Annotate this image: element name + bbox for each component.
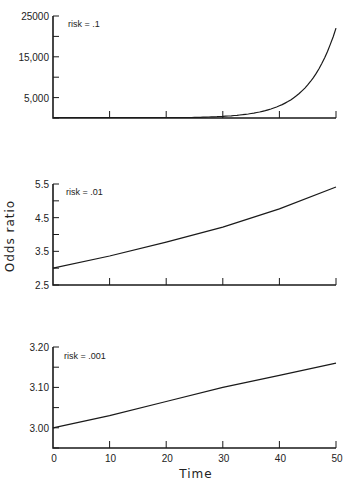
series-line [53,28,336,117]
risk-annotation: risk = .1 [68,19,100,29]
y-tick-label: 3.10 [30,382,50,393]
risk-annotation: risk = .001 [64,351,106,361]
series-line [53,363,336,428]
x-axis-title: Time [178,467,212,481]
risk-annotation: risk = .01 [66,187,103,197]
x-tick-label: 20 [162,453,174,464]
y-tick-label: 3.20 [30,342,50,353]
figure: 5,00015,00025000risk = .1 2.53.54.55.5ri… [0,0,359,492]
axis-lines [53,347,336,448]
x-tick-label: 50 [331,453,343,464]
y-tick-label: 4.5 [35,213,49,224]
y-tick-label: 3.5 [35,246,49,257]
y-tick-label: 5,000 [24,93,49,104]
y-tick-label: 5.5 [35,179,49,190]
panel-risk-0.01: 2.53.54.55.5risk = .01 [35,179,336,291]
y-tick-label: 2.5 [35,280,49,291]
y-tick-label: 15,000 [18,52,49,63]
y-tick-label: 25000 [21,11,49,22]
x-tick-label: 10 [105,453,117,464]
axis-lines [53,16,336,118]
x-tick-label: 0 [51,453,57,464]
x-tick-label: 40 [275,453,287,464]
y-tick-label: 3.00 [30,423,50,434]
series-line [53,187,336,268]
panel-risk-0.1: 5,00015,00025000risk = .1 [18,11,336,118]
x-tick-label: 30 [218,453,230,464]
y-axis-title: Odds ratio [3,200,17,272]
panel-risk-0.001: 3.003.103.2001020304050risk = .001 [30,342,343,464]
